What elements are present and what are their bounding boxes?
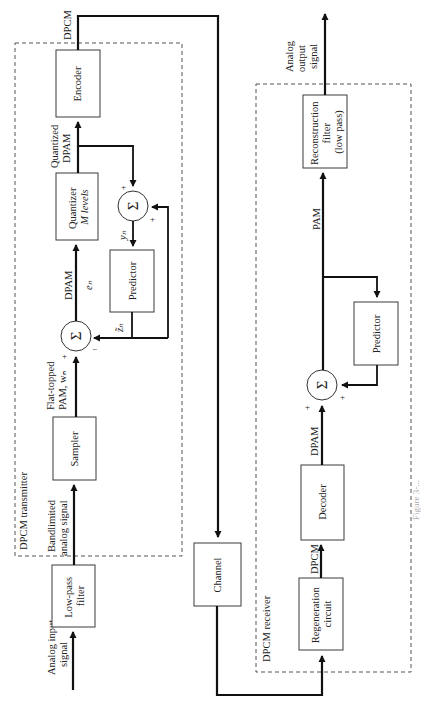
rx-predictor-output-wire: [342, 365, 377, 385]
quantized-label-1: Quantized: [49, 124, 60, 168]
input-signal-label-2: signal: [58, 642, 69, 667]
rx-dpam-label: DPAM: [309, 426, 320, 456]
flat-pam-label-1: Flat-topped: [45, 361, 56, 410]
transmitter-predictor-label: Predictor: [127, 261, 138, 300]
reconstruction-label-1: Reconstruction: [309, 101, 320, 165]
svg-text:Quantizer M levels: Quantizer M levels: [67, 185, 90, 229]
output-label-3: signal: [308, 44, 319, 69]
bandlimited-label-1: Bandlimited: [46, 499, 57, 552]
rx-sum-plus-left: +: [305, 402, 310, 412]
reconstruction-label-3: (low pass): [333, 110, 345, 154]
lowpass-label-2: filter: [75, 585, 86, 606]
reconstruction-label-2: filter: [321, 123, 332, 144]
rx-predictor-input-wire: [323, 277, 377, 297]
dpcm-diagram: DPCM transmitter Analog input signal Low…: [0, 0, 421, 701]
receiver-predictor-label: Predictor: [371, 314, 382, 353]
channel-label: Channel: [212, 557, 223, 592]
decoder-label: Decoder: [317, 484, 328, 520]
input-signal-label-1: Analog input: [46, 620, 57, 675]
main-sum-plus: +: [62, 351, 67, 361]
regeneration-label-1: Regeneration: [310, 587, 321, 644]
pam-label: PAM: [311, 208, 322, 230]
output-label-1: Analog: [284, 40, 295, 72]
fb-sum-plus-top: +: [121, 182, 126, 192]
rx-dpcm-label: DPCM: [309, 544, 320, 574]
receiver-label: DPCM receiver: [261, 595, 272, 662]
sampler-label: Sampler: [69, 431, 80, 466]
output-label-2: output: [296, 45, 307, 72]
quantizer-label-2: M levels: [79, 189, 90, 225]
main-sum-minus: −: [92, 344, 97, 354]
flat-pam-label-2: PAM, wₙ: [57, 371, 68, 410]
transmitter-boundary: [15, 43, 182, 556]
feedback-sum-symbol: Σ: [125, 202, 141, 211]
regeneration-label-2: circuit: [322, 601, 333, 628]
regeneration-block: [299, 578, 343, 650]
transmitter-label: DPCM transmitter: [18, 472, 29, 550]
zn-label: z̃ₙ: [114, 323, 125, 333]
fb-sum-plus-right: +: [150, 214, 155, 224]
dpam-label: DPAM: [63, 270, 74, 300]
lowpass-label-1: Low-pass: [63, 577, 74, 618]
figure-caption-fragment: Figure 3-...: [411, 480, 421, 520]
receiver-sum-symbol: Σ: [314, 381, 330, 390]
rx-sum-plus-right: +: [340, 392, 345, 402]
en-label: eₙ: [83, 280, 94, 290]
quantizer-label-1: Quantizer: [67, 187, 78, 229]
encoder-label: Encoder: [72, 66, 83, 101]
dpcm-output-label: DPCM: [62, 10, 73, 40]
bandlimited-label-2: analog signal: [58, 500, 69, 556]
transmitter-sum-symbol: Σ: [68, 332, 84, 341]
yn-label: yₙ: [117, 230, 128, 241]
quantized-label-2: DPAM: [61, 133, 72, 163]
